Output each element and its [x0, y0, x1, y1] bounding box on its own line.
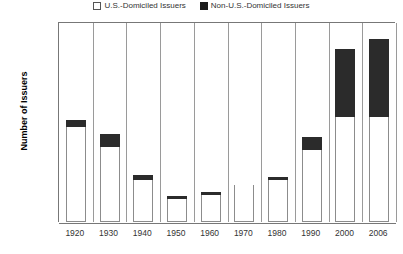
- bar-segment-non-us-domiciled[interactable]: [335, 49, 355, 117]
- bar-slot: [126, 22, 160, 222]
- stacked-bar[interactable]: [302, 137, 322, 222]
- category-separator: [396, 23, 397, 222]
- x-axis-tick-label: 1980: [268, 228, 287, 238]
- bar-segment-us-domiciled[interactable]: [335, 117, 355, 222]
- x-axis-tick-label: 2000: [335, 228, 354, 238]
- bar-slot: [362, 22, 396, 222]
- bar-slot: [59, 22, 93, 222]
- bar-segment-us-domiciled[interactable]: [268, 180, 288, 222]
- stacked-bar[interactable]: [268, 177, 288, 222]
- x-axis-tick-label: 1930: [99, 228, 118, 238]
- bar-segment-us-domiciled[interactable]: [201, 195, 221, 222]
- bar-slot: [93, 22, 127, 222]
- bar-segment-non-us-domiciled[interactable]: [369, 39, 389, 117]
- stacked-bar[interactable]: [369, 39, 389, 222]
- stacked-bar[interactable]: [133, 175, 153, 222]
- x-axis-tick-label: 1950: [166, 228, 185, 238]
- bar-slot: [329, 22, 363, 222]
- legend-item-non-us-domiciled: Non-U.S.-Domiciled Issuers: [200, 1, 310, 10]
- bar-slot: [295, 22, 329, 222]
- bar-slot: [194, 22, 228, 222]
- bar-segment-non-us-domiciled[interactable]: [100, 134, 120, 147]
- bar-slot: [160, 22, 194, 222]
- stacked-bar[interactable]: [335, 49, 355, 222]
- x-axis-tick-label: 2006: [369, 228, 388, 238]
- stacked-bar[interactable]: [167, 196, 187, 222]
- bar-segment-us-domiciled[interactable]: [167, 199, 187, 222]
- x-axis-tick-label: 1960: [200, 228, 219, 238]
- bar-segment-us-domiciled[interactable]: [66, 127, 86, 222]
- stacked-bar[interactable]: [100, 134, 120, 222]
- bar-segment-us-domiciled[interactable]: [234, 185, 254, 222]
- x-axis-tick-label: 1920: [65, 228, 84, 238]
- bar-segment-non-us-domiciled[interactable]: [302, 137, 322, 150]
- open-square-icon: [93, 2, 101, 10]
- chart-legend: U.S.-Domiciled Issuers Non-U.S.-Domicile…: [0, 1, 403, 10]
- x-axis-tick-label: 1970: [234, 228, 253, 238]
- bar-segment-us-domiciled[interactable]: [133, 180, 153, 222]
- legend-label-us-domiciled: U.S.-Domiciled Issuers: [104, 1, 185, 10]
- legend-item-us-domiciled: U.S.-Domiciled Issuers: [93, 1, 185, 10]
- stacked-bar[interactable]: [201, 192, 221, 222]
- stacked-bar[interactable]: [234, 185, 254, 222]
- bar-segment-us-domiciled[interactable]: [100, 147, 120, 222]
- stacked-bar[interactable]: [66, 120, 86, 222]
- bar-slot: [261, 22, 295, 222]
- issuers-bar-chart: U.S.-Domiciled Issuers Non-U.S.-Domicile…: [0, 0, 403, 254]
- bar-slot: [228, 22, 262, 222]
- x-axis-tick-label: 1990: [301, 228, 320, 238]
- filled-square-icon: [200, 2, 208, 10]
- y-axis-title: Number of Issuers: [19, 56, 29, 166]
- plot-area: 01,0002,0003,0004,0005,0006,000: [58, 22, 395, 222]
- bar-segment-non-us-domiciled[interactable]: [66, 120, 86, 127]
- x-axis-line: [59, 223, 396, 224]
- x-axis-tick-label: 1940: [133, 228, 152, 238]
- bar-segment-us-domiciled[interactable]: [302, 150, 322, 222]
- bar-segment-us-domiciled[interactable]: [369, 117, 389, 222]
- legend-label-non-us-domiciled: Non-U.S.-Domiciled Issuers: [211, 1, 310, 10]
